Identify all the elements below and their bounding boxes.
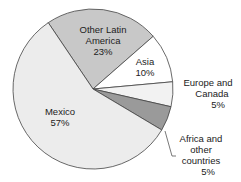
label-asia: Asia 10%: [130, 56, 160, 78]
label-europe-canada: Europe and Canada 5%: [176, 77, 240, 110]
africa-leader-line: [165, 131, 176, 156]
label-africa-other: Africa and other countries 5%: [176, 133, 226, 177]
label-other-latin-america: Other Latin America 23%: [70, 24, 136, 57]
label-mexico: Mexico 57%: [40, 106, 80, 128]
